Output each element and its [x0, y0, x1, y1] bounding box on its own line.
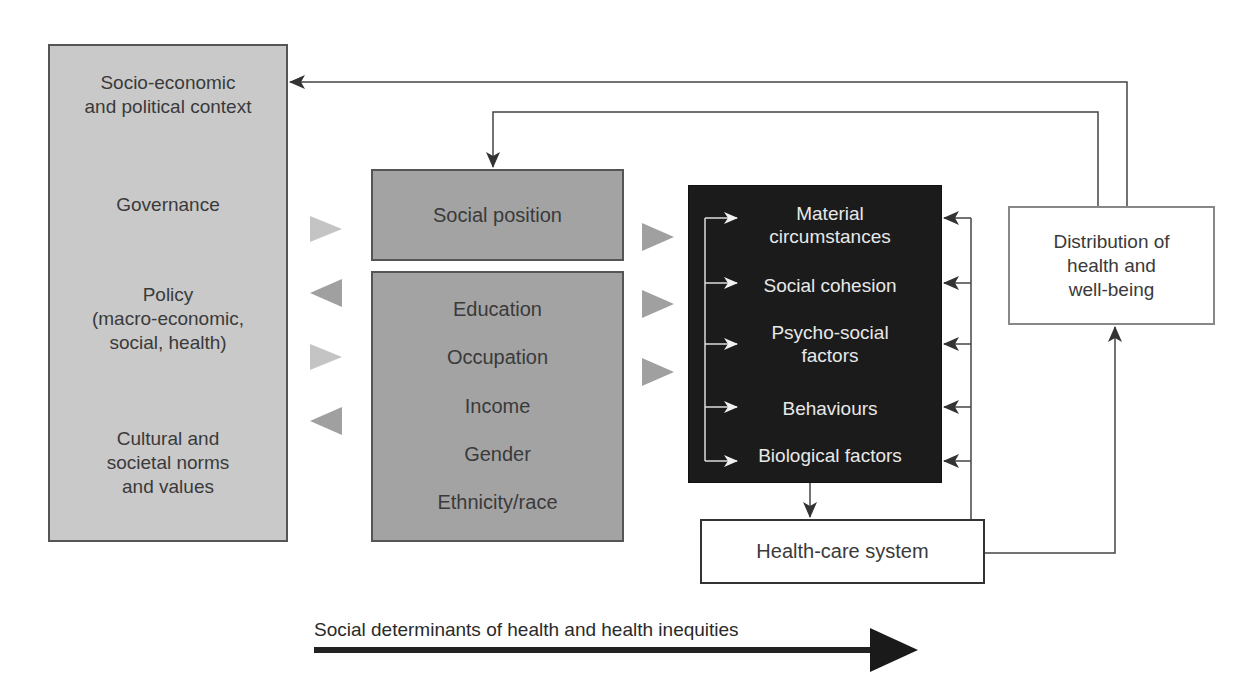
intermediary-biological: Biological factors — [719, 444, 941, 467]
intermediary-determinants-box: Material circumstances Social cohesion P… — [688, 185, 942, 483]
health-care-system-label: Health-care system — [756, 540, 928, 563]
position-intermediary-triangles — [642, 223, 674, 386]
triangle-right-icon — [642, 358, 674, 386]
stratifier-occupation: Occupation — [373, 345, 622, 369]
bottom-arrow-caption: Social determinants of health and health… — [314, 619, 739, 641]
triangle-right-icon — [310, 344, 342, 370]
triangle-right-icon — [310, 216, 342, 242]
distribution-label: Distribution of health and well-being — [1053, 230, 1169, 302]
intermediary-psycho-social: Psycho-social factors — [719, 321, 941, 367]
intermediary-behaviours: Behaviours — [719, 397, 941, 420]
context-label-socio-economic: Socio-economic and political context — [50, 71, 286, 119]
intermediary-social-cohesion: Social cohesion — [719, 274, 941, 297]
health-care-feedback-arrows — [944, 218, 971, 519]
social-position-box: Social position — [371, 169, 624, 261]
stratifier-education: Education — [373, 297, 622, 321]
context-label-governance: Governance — [50, 193, 286, 217]
triangle-right-icon — [642, 223, 674, 251]
triangle-left-icon — [310, 407, 342, 435]
triangle-right-icon — [642, 290, 674, 318]
arrow-to-distribution — [985, 327, 1115, 553]
socio-economic-context-box: Socio-economic and political context Gov… — [48, 44, 288, 542]
context-label-policy: Policy (macro-economic, social, health) — [50, 283, 286, 355]
stratifiers-box: Education Occupation Income Gender Ethni… — [371, 271, 624, 542]
health-care-system-box: Health-care system — [700, 519, 985, 584]
stratifier-gender: Gender — [373, 442, 622, 466]
context-position-triangles — [310, 216, 342, 435]
context-label-cultural-norms: Cultural and societal norms and values — [50, 427, 286, 499]
arrow-right-icon — [870, 628, 918, 672]
intermediary-material-circumstances: Material circumstances — [719, 202, 941, 248]
triangle-left-icon — [310, 279, 342, 307]
stratifier-ethnicity: Ethnicity/race — [373, 490, 622, 514]
distribution-of-health-box: Distribution of health and well-being — [1008, 206, 1215, 325]
social-position-label: Social position — [433, 204, 562, 227]
stratifier-income: Income — [373, 394, 622, 418]
